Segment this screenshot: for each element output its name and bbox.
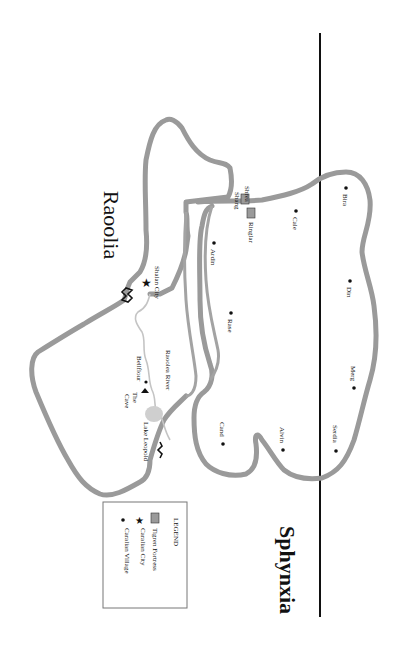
dot-icon xyxy=(352,386,356,390)
label-alvin: Alvin xyxy=(278,427,286,443)
dot-icon xyxy=(281,448,285,452)
label-lake-leopold: Lake Leopold xyxy=(142,422,150,462)
legend-label-village: Caralian Village xyxy=(123,528,131,574)
dot-icon xyxy=(348,279,352,283)
label-cave: Cave xyxy=(123,394,131,408)
legend-label-fortress: Tigren Fortress xyxy=(151,528,159,571)
label-river: Raoolea River xyxy=(164,350,172,391)
label-shrea: Shrea xyxy=(243,186,251,203)
dot-icon xyxy=(344,186,348,190)
dot-icon xyxy=(144,380,147,383)
label-cand: Cand xyxy=(218,422,226,437)
label-cale: Cale xyxy=(291,217,299,230)
dot-icon xyxy=(221,442,225,446)
region-label-raoolia: Raoolia xyxy=(99,191,124,260)
label-bira: Bira xyxy=(341,194,349,207)
label-merg: Merg xyxy=(349,366,357,382)
region-label-sphynxia: Sphynxia xyxy=(275,526,300,614)
map-canvas: Raoolia Sphynxia Shrea Shang Ringlar ★ S… xyxy=(0,0,400,650)
label-shang: Shang xyxy=(233,192,241,210)
dot-icon xyxy=(212,241,216,245)
lake-leopold-shape xyxy=(145,406,163,422)
label-shalan-city: Shalan City xyxy=(153,266,161,299)
dot-icon xyxy=(229,311,233,315)
label-ringlar: Ringlar xyxy=(247,222,255,244)
legend: LEGEND Tigren Fortress ★ Caralian City C… xyxy=(103,502,187,608)
label-serdia: Serdia xyxy=(331,425,339,444)
star-icon: ★ xyxy=(135,515,144,526)
dot-icon xyxy=(334,449,338,453)
fortress-icon xyxy=(151,513,159,523)
mountain-marker-south xyxy=(158,442,162,458)
label-rase: Rase xyxy=(226,319,234,333)
legend-title: LEGEND xyxy=(172,518,180,546)
star-icon: ★ xyxy=(141,276,152,290)
cave-icon xyxy=(141,388,149,393)
label-bellflour: Bellflour xyxy=(135,356,143,382)
legend-label-city: Caralian City xyxy=(139,528,147,566)
label-the: The xyxy=(131,392,139,403)
label-din: Din xyxy=(345,287,353,298)
dot-icon xyxy=(121,518,125,522)
label-ardin: Ardin xyxy=(209,249,217,266)
dot-icon xyxy=(294,209,298,213)
